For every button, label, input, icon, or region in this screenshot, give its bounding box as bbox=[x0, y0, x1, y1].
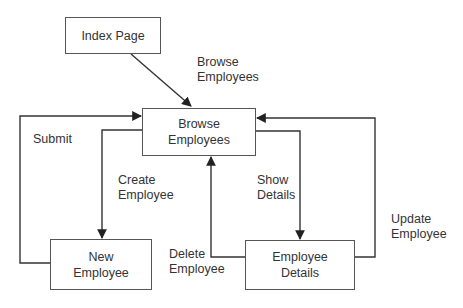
edge-delete-employee bbox=[211, 157, 245, 257]
edge-label-update-employee: Update Employee bbox=[391, 212, 447, 242]
edge-label-submit: Submit bbox=[33, 132, 72, 147]
node-index-page: Index Page bbox=[65, 17, 161, 54]
node-index-page-label: Index Page bbox=[81, 28, 144, 44]
edge-label-delete-employee: Delete Employee bbox=[169, 247, 225, 277]
edge-index-to-browse bbox=[131, 54, 191, 106]
node-browse-employees-label: Browse Employees bbox=[168, 116, 230, 148]
node-browse-employees: Browse Employees bbox=[142, 108, 256, 156]
edge-label-browse-employees: Browse Employees bbox=[197, 55, 259, 85]
edge-label-create-employee: Create Employee bbox=[118, 173, 174, 203]
node-employee-details-label: Employee Details bbox=[272, 249, 328, 281]
node-new-employee: New Employee bbox=[50, 239, 152, 290]
edge-label-show-details: Show Details bbox=[257, 173, 295, 203]
node-employee-details: Employee Details bbox=[245, 240, 355, 290]
node-new-employee-label: New Employee bbox=[73, 249, 129, 281]
